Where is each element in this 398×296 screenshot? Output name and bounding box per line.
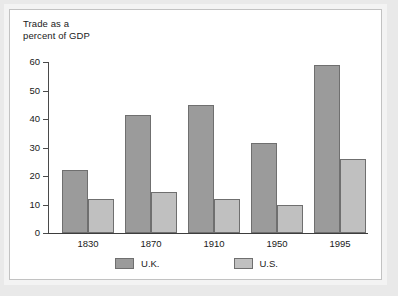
bar-us-1995	[340, 159, 366, 233]
y-axis-tick-labels: 60 50 40 30 20 10 0	[18, 10, 40, 281]
bar-us-1910	[214, 199, 240, 233]
y-tick-label-50: 50	[18, 85, 40, 96]
chart-screenshot: Trade as a percent of GDP 60 50 40 30 20…	[0, 0, 398, 296]
legend: U.K. U.S.	[10, 258, 383, 269]
x-tick-label-1910: 1910	[188, 238, 240, 249]
legend-item-uk: U.K.	[115, 258, 159, 269]
legend-item-us: U.S.	[234, 258, 278, 269]
bar-uk-1910	[188, 105, 214, 233]
bar-uk-1830	[62, 170, 88, 233]
bar-uk-1870	[125, 115, 151, 233]
bar-uk-1950	[251, 143, 277, 233]
legend-label-uk: U.K.	[141, 258, 159, 269]
legend-swatch-us-icon	[234, 258, 253, 269]
legend-swatch-uk-icon	[115, 258, 134, 269]
x-tick-label-1950: 1950	[251, 238, 303, 249]
y-tick-label-40: 40	[18, 113, 40, 124]
y-tick-label-10: 10	[18, 199, 40, 210]
y-tick-label-20: 20	[18, 170, 40, 181]
x-tick-label-1830: 1830	[62, 238, 114, 249]
bar-us-1870	[151, 192, 177, 233]
y-tick-label-60: 60	[18, 56, 40, 67]
chart-panel: Trade as a percent of GDP 60 50 40 30 20…	[9, 9, 382, 280]
y-axis-line	[48, 62, 49, 234]
bar-us-1830	[88, 199, 114, 233]
legend-label-us: U.S.	[260, 258, 278, 269]
bar-us-1950	[277, 205, 303, 234]
x-tick-label-1995: 1995	[314, 238, 366, 249]
plot-area: 60 50 40 30 20 10 0	[10, 10, 383, 281]
y-tick-label-30: 30	[18, 142, 40, 153]
x-tick-label-1870: 1870	[125, 238, 177, 249]
bar-uk-1995	[314, 65, 340, 233]
y-tick-label-0: 0	[18, 227, 40, 238]
